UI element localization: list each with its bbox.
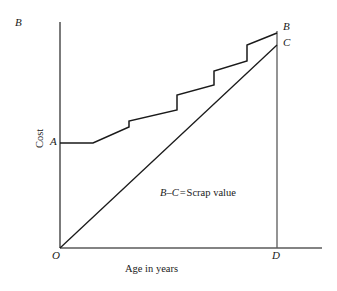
cost-step-curve-ab [60, 33, 277, 143]
scrap-value-annotation: B–C=Scrap value [160, 188, 236, 199]
y-axis-top-label: B [15, 17, 22, 28]
point-label-o: O [52, 250, 60, 261]
point-label-c: C [283, 37, 290, 48]
annotation-equals: = [180, 187, 186, 198]
annotation-text: Scrap value [187, 187, 236, 198]
y-axis-title: Cost [35, 129, 46, 148]
annotation-term-c: C [172, 187, 179, 198]
point-label-b: B [283, 21, 290, 32]
point-label-d: D [272, 250, 280, 261]
point-label-a: A [50, 136, 57, 147]
x-axis-title: Age in years [125, 264, 178, 275]
depreciation-line-oc [60, 45, 277, 248]
figure-container: B Cost A B C O D Age in years B–C=Scrap … [0, 0, 337, 291]
